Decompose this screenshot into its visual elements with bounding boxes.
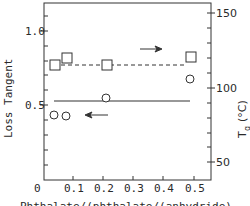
square-marker <box>102 60 112 70</box>
y-tick-1.0: 1.0 <box>25 25 45 38</box>
x-axis-label: Phthalate/(phthalate/(anhydride) <box>20 200 232 206</box>
circle-marker <box>186 75 194 83</box>
x-tick-0.4: 0.4 <box>154 182 174 195</box>
square-marker <box>62 53 72 63</box>
left-arrow-icon <box>85 112 108 118</box>
x-axis-ticks <box>73 176 194 180</box>
plot-frame <box>44 3 211 180</box>
loss-tangent-markers <box>50 75 194 120</box>
y2-axis-label: T g (°C) <box>236 100 250 139</box>
x-tick-0.2: 0.2 <box>94 182 114 195</box>
square-marker <box>50 60 60 70</box>
y2-tick-50: 50 <box>216 156 230 169</box>
right-arrow-icon <box>140 46 162 52</box>
svg-text:(°C): (°C) <box>236 100 249 122</box>
y-axis-label: Loss Tangent <box>2 59 15 138</box>
y-tick-0.5: 0.5 <box>25 99 45 112</box>
x-tick-0.5: 0.5 <box>185 182 205 195</box>
square-marker <box>186 52 196 62</box>
circle-marker <box>62 112 70 120</box>
y2-tick-100: 100 <box>216 82 237 95</box>
svg-text:T: T <box>236 131 249 139</box>
circle-marker <box>102 94 110 102</box>
circle-marker <box>50 111 58 119</box>
x-tick-0: 0 <box>34 182 41 195</box>
y2-tick-150: 150 <box>216 7 237 20</box>
chart: 1.0 0.5 150 100 50 0 0.1 0.2 0.3 0.4 0.5… <box>0 0 250 206</box>
x-tick-0.3: 0.3 <box>124 182 144 195</box>
x-tick-0.1: 0.1 <box>64 182 84 195</box>
svg-text:g: g <box>243 126 250 131</box>
tg-markers <box>50 52 196 70</box>
